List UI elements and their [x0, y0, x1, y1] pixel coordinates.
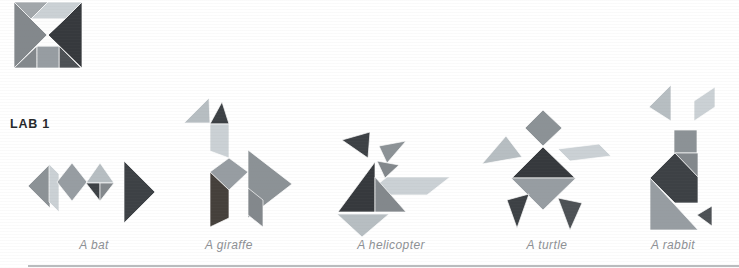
turtle-left-leg-piece — [507, 194, 529, 228]
giraffe-head-dark-triangle-piece — [210, 102, 229, 124]
figure-caption-turtle: A turtle — [527, 238, 568, 252]
bat-small-gray-triangle-piece — [100, 183, 114, 201]
rabbit-right-ear-parallelogram-piece — [694, 87, 715, 121]
rabbit-head-square-piece — [674, 130, 697, 153]
helicopter-figure-svg — [336, 131, 452, 238]
bat-body-diamond-piece — [57, 163, 87, 201]
giraffe-head-light-triangle-piece — [184, 98, 210, 123]
figure-caption-helicopter: A helicopter — [357, 238, 425, 252]
rabbit-figure-svg — [648, 84, 716, 232]
tangram-figure-rabbit — [648, 84, 716, 232]
figure-caption-rabbit: A rabbit — [651, 238, 695, 252]
scanned-page: LAB 1 — [0, 0, 739, 268]
square-center-square-piece — [37, 46, 59, 68]
bottom-rule — [28, 265, 739, 267]
lab-heading: LAB 1 — [10, 117, 50, 131]
bat-light-triangle-piece — [86, 163, 114, 183]
bat-parallelogram-piece — [49, 164, 59, 212]
figure-caption-giraffe: A giraffe — [205, 238, 253, 252]
bat-small-dark-triangle-piece — [86, 183, 100, 201]
helicopter-body-dark-triangle-piece — [338, 162, 375, 212]
helicopter-rotor-left-blade-piece — [342, 132, 370, 158]
turtle-left-flipper-piece — [482, 136, 522, 164]
tangram-figure-bat — [28, 158, 158, 228]
rabbit-left-ear-triangle-piece — [649, 85, 671, 121]
tangram-square-figure — [14, 2, 84, 70]
rabbit-front-paw-triangle-piece — [697, 206, 712, 226]
bat-figure-svg — [28, 158, 158, 228]
tangram-figure-turtle — [481, 108, 612, 232]
bat-left-wing-piece — [28, 164, 50, 208]
helicopter-rotor-small-blade-piece — [377, 161, 399, 178]
turtle-figure-svg — [481, 108, 612, 232]
giraffe-figure-svg — [184, 96, 294, 230]
turtle-right-flipper-parallelogram-piece — [558, 144, 611, 161]
tangram-figure-helicopter — [336, 131, 452, 238]
turtle-head-diamond-piece — [525, 110, 562, 146]
tangram-figure-giraffe — [184, 96, 294, 230]
bat-right-wing-piece — [124, 161, 155, 223]
tangram-square-svg — [14, 2, 84, 70]
figure-caption-bat: A bat — [79, 238, 109, 252]
turtle-right-leg-piece — [558, 198, 582, 230]
helicopter-skid-triangle-piece — [337, 214, 389, 237]
giraffe-neck-parallelogram-piece — [210, 124, 229, 158]
helicopter-rotor-right-blade-piece — [379, 141, 406, 163]
